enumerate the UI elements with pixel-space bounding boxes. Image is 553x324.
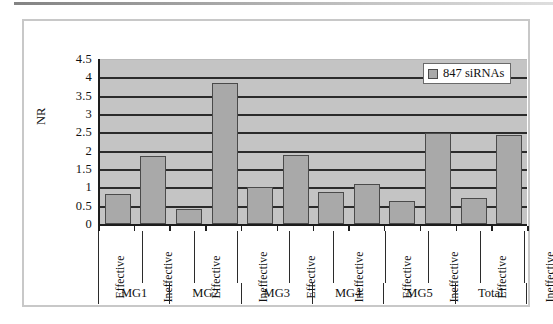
x-axis-subcategory-row: EffectiveIneffectiveEffectiveIneffective… <box>98 231 527 283</box>
x-axis-subcategory-cell: Effective <box>290 231 334 283</box>
y-tick-label: 0.5 <box>76 198 92 213</box>
x-axis-group-label: MG5 <box>384 283 455 304</box>
bar <box>140 156 166 224</box>
bar <box>354 184 380 224</box>
bar <box>496 135 522 224</box>
bar-group <box>100 59 171 224</box>
bar <box>247 187 273 224</box>
y-tick-label: 4 <box>86 70 92 85</box>
legend-label: 847 siRNAs <box>443 66 504 81</box>
plot-area <box>98 59 527 226</box>
x-axis-labels: EffectiveIneffectiveEffectiveIneffective… <box>98 226 527 304</box>
bar <box>212 83 238 224</box>
x-axis-subcategory-cell: Ineffective <box>238 231 290 283</box>
x-axis-group-row: MG1MG2MG3MG4MG5Total <box>98 283 527 304</box>
y-tick-label: 3.5 <box>76 88 92 103</box>
bar-group <box>171 59 242 224</box>
bar <box>389 201 415 224</box>
x-axis-group-label: MG1 <box>98 283 170 304</box>
y-tick-label: 4.5 <box>76 52 92 67</box>
x-axis-subcategory-label: Ineffective <box>544 252 553 303</box>
x-axis-subcategory-cell: Ineffective <box>334 231 386 283</box>
bar <box>176 209 202 224</box>
y-tick-label: 1.5 <box>76 162 92 177</box>
bar-group <box>314 59 385 224</box>
bar-group <box>242 59 313 224</box>
x-axis-subcategory-cell: Effective <box>386 231 430 283</box>
bar <box>425 133 451 224</box>
x-axis-subcategory-cell: Ineffective <box>143 231 195 283</box>
x-axis-subcategory-cell: Effective <box>195 231 239 283</box>
x-axis-group-label: MG2 <box>170 283 241 304</box>
legend: 847 siRNAs <box>423 63 511 84</box>
scan-artifact-line <box>14 2 553 5</box>
y-tick-label: 2 <box>86 143 92 158</box>
figure-frame: NR 4.543.532.521.510.50 847 siRNAs Effec… <box>22 19 530 307</box>
x-axis-group-label: MG4 <box>313 283 384 304</box>
x-axis-subcategory-cell: Ineffective <box>525 231 553 283</box>
bar <box>283 155 309 224</box>
y-tick-label: 0 <box>86 217 92 232</box>
x-axis-subcategory-cell: Effective <box>98 231 143 283</box>
y-tick-label: 2.5 <box>76 125 92 140</box>
bar <box>105 194 131 224</box>
y-axis-tick-labels: 4.543.532.521.510.50 <box>24 21 98 305</box>
x-axis-group-label: Total <box>456 283 527 304</box>
y-tick-label: 1 <box>86 180 92 195</box>
x-axis-subcategory-cell: Ineffective <box>429 231 481 283</box>
y-tick-label: 3 <box>86 107 92 122</box>
bar <box>318 192 344 224</box>
series-swatch-icon <box>428 69 438 79</box>
x-axis-group-label: MG3 <box>242 283 313 304</box>
bar <box>461 198 487 224</box>
x-axis-subcategory-cell: Effective <box>481 231 525 283</box>
